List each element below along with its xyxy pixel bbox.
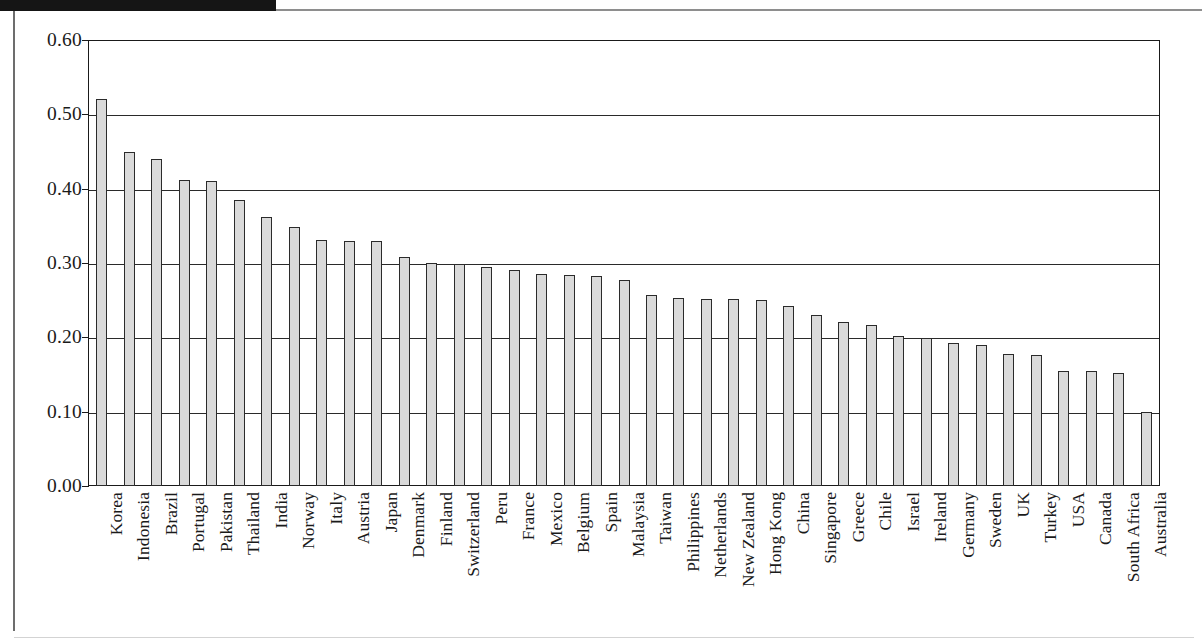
x-axis-tick-label: Netherlands [712, 492, 730, 578]
bar[interactable] [151, 159, 162, 486]
bar[interactable] [179, 180, 190, 486]
x-axis-tick-label: Malaysia [630, 492, 648, 557]
bar[interactable] [509, 270, 520, 486]
bar[interactable] [454, 264, 465, 486]
bar[interactable] [646, 295, 657, 486]
bar[interactable] [536, 274, 547, 486]
bar[interactable] [124, 152, 135, 487]
y-axis-tick-label: 0.50 [8, 104, 82, 124]
x-axis-tick-label-text: Israel [905, 492, 923, 531]
bar[interactable] [399, 257, 410, 486]
x-axis-tick-label-text: Singapore [822, 492, 840, 564]
bar[interactable] [234, 200, 245, 486]
bar[interactable] [316, 240, 327, 486]
x-axis-tick-label: Canada [1097, 492, 1115, 545]
x-axis-tick-label: Korea [108, 492, 126, 535]
x-axis-tick-label-text: Turkey [1042, 492, 1060, 543]
x-axis-tick-label: Switzerland [465, 492, 483, 577]
x-axis-tick-label-text: Canada [1097, 492, 1115, 545]
bar[interactable] [564, 275, 575, 486]
x-axis-tick-label: Sweden [987, 492, 1005, 548]
x-axis-tick-label-text: Pakistan [218, 492, 236, 552]
x-axis-tick-label: Israel [905, 492, 923, 531]
bar[interactable] [1003, 354, 1014, 486]
bar[interactable] [426, 263, 437, 486]
x-axis-tick-label-text: Belgium [575, 492, 593, 553]
x-axis-tick-label-text: Sweden [987, 492, 1005, 548]
bar[interactable] [921, 338, 932, 486]
bar[interactable] [701, 299, 712, 486]
x-axis-tick-label: Turkey [1042, 492, 1060, 543]
bar[interactable] [673, 298, 684, 486]
x-axis-tick-label: Spain [603, 492, 621, 532]
bar[interactable] [289, 227, 300, 486]
x-axis-tick-label: Thailand [245, 492, 263, 555]
x-axis-tick-label-text: South Africa [1125, 492, 1143, 582]
x-axis-tick-label-text: India [273, 492, 291, 528]
x-axis-tick-label-text: France [520, 492, 538, 540]
bar[interactable] [261, 217, 272, 486]
bar[interactable] [756, 300, 767, 486]
bar[interactable] [1031, 355, 1042, 486]
x-axis-tick-label-text: Australia [1152, 492, 1170, 557]
x-axis-tick-labels: KoreaIndonesiaBrazilPortugalPakistanThai… [88, 492, 1160, 637]
bar[interactable] [619, 280, 630, 486]
bar[interactable] [948, 343, 959, 486]
bar[interactable] [811, 315, 822, 486]
bar[interactable] [838, 322, 849, 486]
x-axis-tick-label-text: Denmark [410, 492, 428, 558]
x-axis-tick-label-text: Norway [300, 492, 318, 549]
x-axis-tick-label: Singapore [822, 492, 840, 564]
bar[interactable] [591, 276, 602, 486]
y-axis-tick-label: 0.60 [8, 30, 82, 50]
x-axis-tick-label-text: New Zealand [740, 492, 758, 587]
x-axis-tick-label-text: Ireland [932, 492, 950, 542]
bar[interactable] [1086, 371, 1097, 486]
bar[interactable] [783, 306, 794, 486]
x-axis-tick-label-text: Peru [493, 492, 511, 524]
x-axis-tick-label: Japan [383, 492, 401, 532]
bar[interactable] [1113, 373, 1124, 486]
bar[interactable] [976, 345, 987, 486]
x-axis-tick-label: USA [1070, 492, 1088, 527]
bar[interactable] [1058, 371, 1069, 486]
bar[interactable] [206, 181, 217, 487]
x-axis-tick-label-text: Switzerland [465, 492, 483, 577]
y-axis-tick-mark [82, 486, 89, 487]
x-axis-tick-label: India [273, 492, 291, 528]
x-axis-tick-label-text: Spain [603, 492, 621, 532]
bar[interactable] [893, 336, 904, 486]
y-axis-tick-label: 0.40 [8, 179, 82, 199]
x-axis-tick-label: Brazil [163, 492, 181, 535]
bar[interactable] [866, 325, 877, 486]
x-axis-tick-label: UK [1015, 492, 1033, 517]
bar-chart: 0.000.100.200.300.400.500.60 KoreaIndone… [0, 0, 1202, 642]
bar[interactable] [96, 99, 107, 486]
x-axis-tick-label-text: Greece [850, 492, 868, 542]
x-axis-tick-label-text: Portugal [190, 492, 208, 552]
x-axis-tick-label: South Africa [1125, 492, 1143, 582]
x-axis-tick-label: Philippines [685, 492, 703, 572]
x-axis-tick-label-text: Finland [438, 492, 456, 546]
x-axis-tick-label: Portugal [190, 492, 208, 552]
x-axis-tick-label: Chile [877, 492, 895, 530]
bars-container [88, 40, 1160, 486]
x-axis-tick-label: Pakistan [218, 492, 236, 552]
bar[interactable] [481, 267, 492, 486]
x-axis-tick-label-text: China [795, 492, 813, 534]
y-axis-tick-label: 0.30 [8, 253, 82, 273]
x-axis-tick-label: Hong Kong [767, 492, 785, 575]
x-axis-tick-label: China [795, 492, 813, 534]
x-axis-tick-label-text: Hong Kong [767, 492, 785, 575]
bar[interactable] [728, 299, 739, 486]
x-axis-tick-label-text: USA [1070, 492, 1088, 527]
x-axis-tick-label: Greece [850, 492, 868, 542]
bar[interactable] [344, 241, 355, 486]
bar[interactable] [1141, 412, 1152, 486]
x-axis-tick-label-text: Indonesia [135, 492, 153, 561]
x-axis-tick-label: New Zealand [740, 492, 758, 587]
x-axis-tick-label: Mexico [548, 492, 566, 546]
x-axis-tick-label: Austria [355, 492, 373, 544]
y-axis-tick-label: 0.00 [8, 476, 82, 496]
bar[interactable] [371, 241, 382, 486]
